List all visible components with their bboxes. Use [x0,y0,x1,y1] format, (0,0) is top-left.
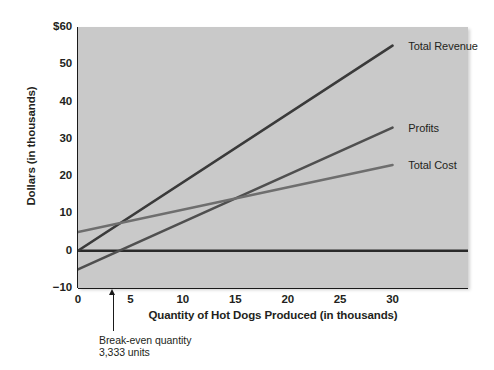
x-axis-tick-label: 10 [163,293,203,306]
x-axis-tick-label: 0 [58,293,98,306]
x-axis-tick-0: 0 [58,293,98,307]
y-axis-tick-neg10: −10 [20,282,72,293]
series-label-profits: Profits [408,122,439,134]
plot-area [78,27,468,288]
x-axis-tick-label: 15 [215,293,255,306]
x-axis-tick-label: 30 [373,293,413,306]
x-axis-tick-label: 20 [268,293,308,306]
y-axis-title: Dollars (in thousands) [25,51,37,241]
series-line-total-cost [78,165,393,232]
y-axis-tick-label: $60 [26,21,72,32]
series-lines-svg [78,27,468,288]
x-axis-tick-5: 5 [110,293,150,307]
x-axis-tick-label: 25 [320,293,360,306]
break-even-label-line-2: 3,333 units [99,346,150,359]
y-axis-tick-60: $60 [20,21,72,32]
y-axis-tick-0: 0 [20,245,72,256]
x-axis-tick-25: 25 [320,293,360,307]
series-label-total-revenue: Total Revenue [408,40,478,52]
break-even-label-line-1: Break-even quantity [99,334,191,347]
x-axis-tick-15: 15 [215,293,255,307]
chart-canvas: −1001020304050$60 051015202530 Dollars (… [0,0,494,370]
x-axis-line [78,288,468,289]
y-axis-tick-label: −10 [26,282,72,293]
x-axis-tick-10: 10 [163,293,203,307]
y-axis-tick-label: 0 [26,245,72,256]
y-axis-line [77,27,78,288]
x-axis-title: Quantity of Hot Dogs Produced (in thousa… [78,309,468,321]
x-axis-tick-20: 20 [268,293,308,307]
x-axis-tick-label: 5 [110,293,150,306]
series-label-total-cost: Total Cost [408,159,456,171]
x-axis-tick-30: 30 [373,293,413,307]
break-even-leader-line [113,295,114,331]
